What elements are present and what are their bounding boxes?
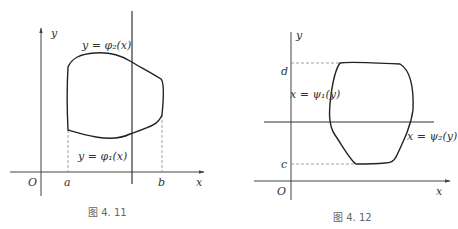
lower-curve-label: y = φ₁(x)	[77, 150, 127, 163]
region-boundary	[67, 53, 163, 138]
figure-caption: 图 4. 12	[333, 212, 372, 223]
y-axis-label: y	[50, 27, 58, 40]
origin-label: O	[277, 185, 286, 198]
upper-curve-label: y = φ₂(x)	[81, 39, 131, 52]
origin-label: O	[28, 176, 37, 189]
right-curve-label: x = ψ₂(y)	[407, 130, 457, 143]
b-label: b	[158, 176, 165, 189]
x-axis-label: x	[436, 185, 443, 198]
figure-4-12: y x O d c x = ψ₁(y) x = ψ₂(y) 图 4. 12	[254, 29, 457, 223]
c-label: c	[281, 158, 287, 171]
a-label: a	[64, 176, 71, 189]
figure-caption: 图 4. 11	[88, 207, 127, 218]
left-curve-label: x = ψ₁(y)	[290, 88, 340, 101]
figure-4-11: y x O a b y = φ₂(x) y = φ₁(x) 图 4. 11	[10, 11, 204, 218]
x-axis-label: x	[196, 176, 203, 189]
region-boundary	[330, 63, 414, 164]
d-label: d	[281, 65, 288, 78]
diagram-canvas: y x O a b y = φ₂(x) y = φ₁(x) 图 4. 11 y …	[0, 0, 458, 229]
y-axis-label: y	[295, 29, 303, 42]
